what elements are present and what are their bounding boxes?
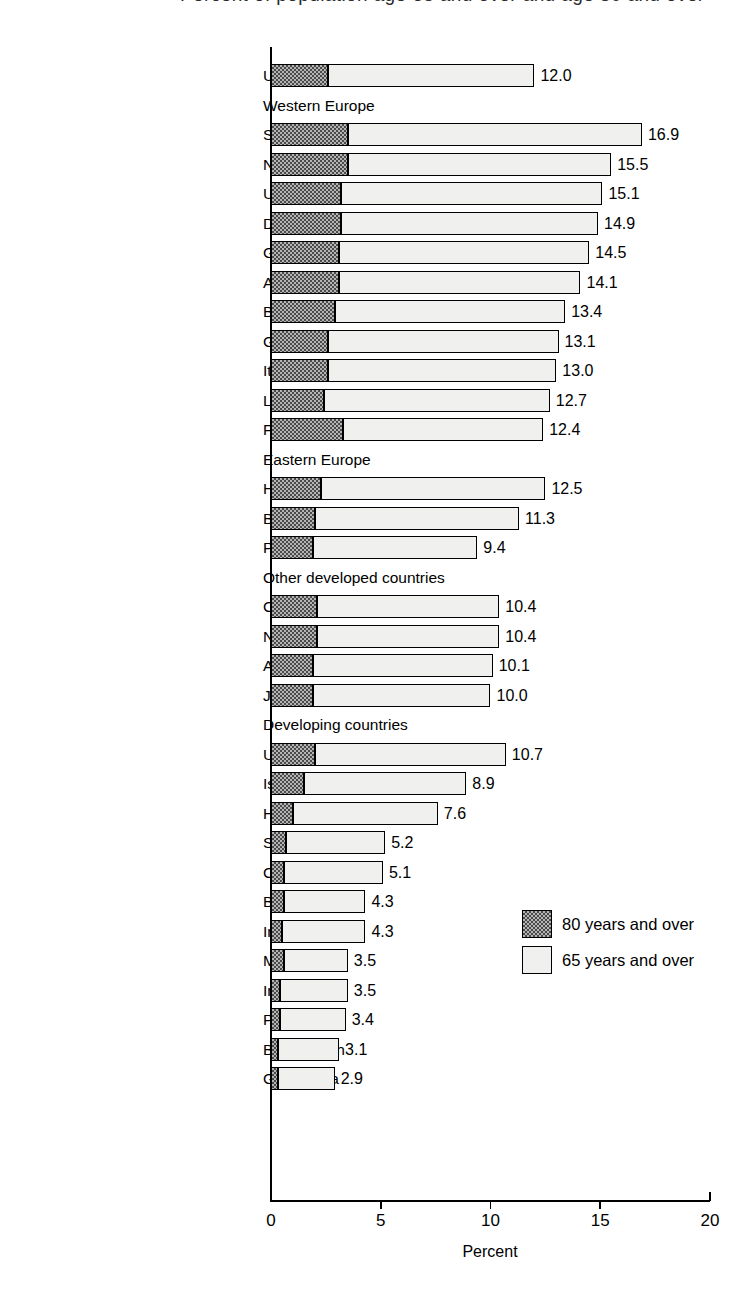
bar-segment-80 bbox=[271, 389, 324, 412]
bar-value-label: 8.9 bbox=[472, 769, 494, 799]
bar-segment-80 bbox=[271, 477, 321, 500]
bar-group bbox=[271, 890, 365, 913]
bar-segment-65 bbox=[313, 684, 491, 707]
bar-segment-65 bbox=[328, 359, 556, 382]
bar-value-label: 15.1 bbox=[608, 179, 639, 209]
chart-bar-row: Japan10.0 bbox=[0, 681, 753, 711]
bar-segment-80 bbox=[271, 212, 341, 235]
bar-segment-80 bbox=[271, 182, 341, 205]
x-axis-tick-label: 10 bbox=[481, 1211, 500, 1231]
bar-segment-65 bbox=[280, 979, 348, 1002]
bar-segment-80 bbox=[271, 123, 348, 146]
legend-item-80: 80 years and over bbox=[522, 908, 752, 944]
bar-group bbox=[271, 153, 611, 176]
bar-group bbox=[271, 684, 491, 707]
bar-segment-80 bbox=[271, 979, 280, 1002]
legend-label-80: 80 years and over bbox=[562, 908, 694, 940]
x-axis-tick-label: 0 bbox=[266, 1211, 275, 1231]
bar-segment-65 bbox=[313, 654, 493, 677]
bar-segment-80 bbox=[271, 772, 304, 795]
legend-item-65: 65 years and over bbox=[522, 944, 752, 980]
bar-value-label: 2.9 bbox=[341, 1064, 363, 1094]
bar-value-label: 3.4 bbox=[352, 1005, 374, 1035]
bar-value-label: 10.4 bbox=[505, 622, 536, 652]
bar-value-label: 13.0 bbox=[562, 356, 593, 386]
bar-group bbox=[271, 64, 534, 87]
bar-segment-65 bbox=[335, 300, 565, 323]
bar-value-label: 4.3 bbox=[371, 917, 393, 947]
x-axis-tick bbox=[599, 1200, 601, 1209]
bar-segment-80 bbox=[271, 536, 313, 559]
chart-bar-row: United States12.0 bbox=[0, 61, 753, 91]
bar-segment-65 bbox=[304, 772, 466, 795]
bar-segment-65 bbox=[284, 949, 348, 972]
chart-bar-row: Sweden16.9 bbox=[0, 120, 753, 150]
bar-segment-80 bbox=[271, 743, 315, 766]
bar-group bbox=[271, 772, 466, 795]
bar-segment-80 bbox=[271, 890, 284, 913]
bar-group bbox=[271, 359, 556, 382]
bar-segment-65 bbox=[286, 831, 385, 854]
bar-segment-80 bbox=[271, 595, 317, 618]
bar-segment-80 bbox=[271, 64, 328, 87]
chart-bar-row: Philippines3.4 bbox=[0, 1005, 753, 1035]
x-axis-title: Percent bbox=[462, 1243, 517, 1261]
chart-bar-row: France12.4 bbox=[0, 415, 753, 445]
chart-bar-row: Denmark14.9 bbox=[0, 209, 753, 239]
bar-segment-80 bbox=[271, 1008, 280, 1031]
bar-segment-65 bbox=[313, 536, 478, 559]
bar-segment-80 bbox=[271, 300, 335, 323]
bar-segment-80 bbox=[271, 507, 315, 530]
bar-group bbox=[271, 1038, 339, 1061]
bar-group bbox=[271, 300, 565, 323]
bar-segment-65 bbox=[284, 890, 365, 913]
chart-bar-row: Israel8.9 bbox=[0, 769, 753, 799]
bar-value-label: 3.5 bbox=[354, 976, 376, 1006]
bar-segment-65 bbox=[328, 64, 534, 87]
chart-bar-row: Norway15.5 bbox=[0, 150, 753, 180]
bar-value-label: 12.0 bbox=[540, 61, 571, 91]
bar-group bbox=[271, 330, 559, 353]
bar-group bbox=[271, 1067, 335, 1090]
bar-group bbox=[271, 1008, 346, 1031]
bar-segment-80 bbox=[271, 920, 282, 943]
bar-value-label: 4.3 bbox=[371, 887, 393, 917]
bar-group bbox=[271, 654, 493, 677]
bar-segment-80 bbox=[271, 271, 339, 294]
chart-group-row: Other developed countries bbox=[0, 563, 753, 593]
bar-segment-65 bbox=[317, 595, 499, 618]
x-axis-tick bbox=[709, 1192, 711, 1201]
bar-value-label: 3.1 bbox=[345, 1035, 367, 1065]
bar-value-label: 12.5 bbox=[551, 474, 582, 504]
bar-segment-65 bbox=[343, 418, 543, 441]
bar-value-label: 11.3 bbox=[525, 504, 555, 534]
bar-segment-80 bbox=[271, 330, 328, 353]
bar-segment-65 bbox=[328, 330, 558, 353]
bar-segment-65 bbox=[348, 123, 642, 146]
bar-value-label: 12.4 bbox=[549, 415, 580, 445]
chart-bar-row: Hungary12.5 bbox=[0, 474, 753, 504]
chart-bar-row: Luxembourg12.7 bbox=[0, 386, 753, 416]
chart-group-row: Developing countries bbox=[0, 710, 753, 740]
chart-bar-row: Germany14.5 bbox=[0, 238, 753, 268]
bar-segment-65 bbox=[339, 271, 580, 294]
bar-group bbox=[271, 271, 580, 294]
bar-segment-65 bbox=[282, 920, 365, 943]
bar-segment-65 bbox=[315, 507, 519, 530]
bar-value-label: 5.2 bbox=[391, 828, 413, 858]
bar-segment-65 bbox=[293, 802, 438, 825]
bar-group bbox=[271, 625, 499, 648]
bar-segment-80 bbox=[271, 861, 284, 884]
chart-bar-row: Poland9.4 bbox=[0, 533, 753, 563]
chart-bar-row: Bangladesh3.1 bbox=[0, 1035, 753, 1065]
chart-bar-row: Italy13.0 bbox=[0, 356, 753, 386]
bar-segment-65 bbox=[278, 1067, 335, 1090]
bar-value-label: 10.0 bbox=[497, 681, 528, 711]
legend-swatch-65-icon bbox=[522, 946, 552, 974]
bar-group bbox=[271, 418, 543, 441]
bar-segment-65 bbox=[339, 241, 589, 264]
bar-value-label: 14.9 bbox=[604, 209, 635, 239]
bar-value-label: 16.9 bbox=[648, 120, 679, 150]
bar-value-label: 13.1 bbox=[565, 327, 596, 357]
bar-segment-65 bbox=[284, 861, 383, 884]
